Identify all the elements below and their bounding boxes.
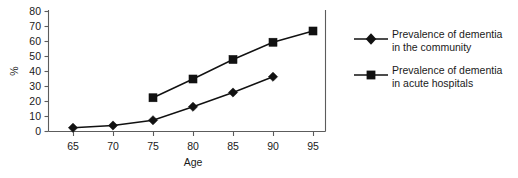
series-line — [73, 77, 273, 128]
y-tick-label: 0 — [35, 125, 41, 137]
data-point — [269, 38, 277, 46]
legend-label-community-line1: Prevalence of dementia — [392, 28, 502, 41]
y-axis-tick-labels: 80 70 60 50 40 30 20 10 0 — [29, 5, 41, 137]
x-tick-label: 95 — [307, 140, 319, 152]
y-tick-label: 60 — [29, 35, 41, 47]
series-community — [68, 72, 277, 132]
y-tick-label: 70 — [29, 20, 41, 32]
data-series-layer — [68, 27, 317, 132]
chart-figure: 80 70 60 50 40 30 20 10 0 % 65 70 75 — [0, 0, 518, 178]
chart-legend: Prevalence of dementia in the community … — [352, 28, 516, 100]
data-point — [189, 75, 197, 83]
data-point — [188, 102, 197, 111]
y-tick-label: 50 — [29, 50, 41, 62]
legend-item-hospitals: Prevalence of dementia in acute hospital… — [352, 64, 516, 91]
x-tick-label: 65 — [67, 140, 79, 152]
legend-label-hospitals: Prevalence of dementia in acute hospital… — [390, 64, 502, 89]
x-tick-label: 80 — [187, 140, 199, 152]
y-tick-label: 10 — [29, 110, 41, 122]
legend-label-community-line2: in the community — [392, 41, 502, 54]
data-point — [229, 56, 237, 64]
y-tick-label: 80 — [29, 5, 41, 17]
y-axis-title: % — [8, 66, 20, 75]
y-tick-label: 20 — [29, 95, 41, 107]
legend-swatch-diamond — [352, 29, 390, 55]
y-tick-label: 40 — [29, 65, 41, 77]
legend-label-hospitals-line1: Prevalence of dementia — [392, 64, 502, 77]
legend-item-community: Prevalence of dementia in the community — [352, 28, 516, 55]
legend-label-hospitals-line2: in acute hospitals — [392, 77, 502, 90]
x-tick-label: 90 — [267, 140, 279, 152]
y-axis-ticks — [45, 12, 49, 132]
legend-swatch-square — [352, 65, 390, 91]
x-axis-ticks — [74, 132, 314, 137]
data-point — [108, 121, 117, 130]
y-tick-label: 30 — [29, 80, 41, 92]
data-point — [268, 72, 277, 81]
data-point — [309, 27, 317, 35]
x-tick-label: 85 — [227, 140, 239, 152]
x-axis-title: Age — [184, 156, 203, 168]
data-point — [228, 88, 237, 97]
data-point — [149, 94, 157, 102]
x-axis-tick-labels: 65 70 75 80 85 90 95 — [67, 140, 319, 152]
legend-label-community: Prevalence of dementia in the community — [390, 28, 502, 53]
x-tick-label: 70 — [107, 140, 119, 152]
x-tick-label: 75 — [147, 140, 159, 152]
data-point — [148, 116, 157, 125]
